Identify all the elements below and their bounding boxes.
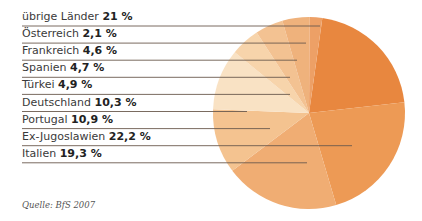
legend-label: übrige Länder	[22, 10, 102, 23]
legend-label: Portugal	[22, 113, 71, 126]
legend-value: 22,2 %	[109, 130, 151, 143]
legend-row: Deutschland 10,3 %	[22, 95, 137, 112]
legend-value: 21 %	[102, 10, 132, 23]
legend-label: Türkei	[22, 78, 58, 91]
legend-label: Ex-Jugoslawien	[22, 130, 109, 143]
legend-label: Spanien	[22, 61, 70, 74]
legend-row: Ex-Jugoslawien 22,2 %	[22, 129, 151, 146]
legend-value: 2,1 %	[82, 27, 116, 40]
legend-value: 4,9 %	[58, 78, 92, 91]
legend-row: übrige Länder 21 %	[22, 9, 133, 26]
legend-label: Österreich	[22, 27, 82, 40]
legend-row: Frankreich 4,6 %	[22, 43, 117, 60]
legend-value: 10,3 %	[95, 96, 137, 109]
legend-label: Italien	[22, 147, 60, 160]
legend-value: 10,9 %	[71, 113, 113, 126]
legend-row: Türkei 4,9 %	[22, 77, 92, 94]
source-note: Quelle: BfS 2007	[22, 200, 95, 210]
legend-value: 4,6 %	[83, 44, 117, 57]
legend-row: Portugal 10,9 %	[22, 112, 113, 129]
pie-slice	[309, 18, 404, 113]
legend-value: 4,7 %	[70, 61, 104, 74]
legend-value: 19,3 %	[60, 147, 102, 160]
legend-label: Frankreich	[22, 44, 83, 57]
legend-row: Italien 19,3 %	[22, 146, 102, 163]
legend-label: Deutschland	[22, 96, 95, 109]
legend-row: Österreich 2,1 %	[22, 26, 117, 43]
legend-row: Spanien 4,7 %	[22, 60, 104, 77]
